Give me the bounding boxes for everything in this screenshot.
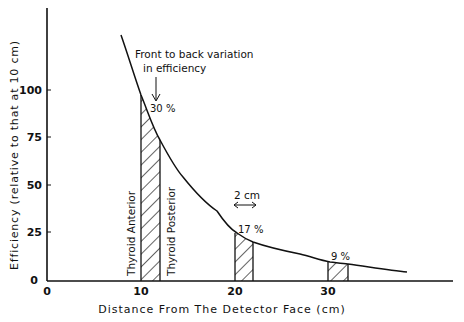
y-axis-title: Efficiency (relative to that at 10 cm) bbox=[8, 40, 21, 270]
y-tick-25: 25 bbox=[27, 226, 42, 239]
x-tick-20: 20 bbox=[227, 285, 243, 298]
double-arrow-icon bbox=[234, 202, 256, 208]
down-arrow-icon bbox=[152, 77, 160, 101]
pct-label-30cm: 9 % bbox=[331, 251, 350, 262]
y-tick-100: 100 bbox=[19, 84, 42, 97]
pct-label-10cm: 30 % bbox=[150, 103, 175, 114]
x-tick-0: 0 bbox=[43, 285, 51, 298]
scale-bar-label: 2 cm bbox=[234, 189, 260, 201]
y-tick-75: 75 bbox=[27, 131, 42, 144]
efficiency-chart: 100 75 50 25 0 0 10 20 30 Front to back … bbox=[0, 0, 464, 322]
pct-label-20cm: 17 % bbox=[238, 224, 263, 235]
y-tick-0: 0 bbox=[30, 274, 38, 287]
thyroid-posterior-label: Thyroid Posterior bbox=[165, 186, 177, 277]
x-ticks: 0 10 20 30 bbox=[43, 285, 336, 298]
y-tick-50: 50 bbox=[27, 179, 43, 192]
thyroid-anterior-label: Thyroid Anterior bbox=[125, 190, 137, 277]
annotation-line2: in efficiency bbox=[143, 62, 206, 74]
x-axis-title: Distance From The Detector Face (cm) bbox=[98, 303, 345, 316]
x-tick-10: 10 bbox=[133, 285, 149, 298]
annotation-line1: Front to back variation bbox=[135, 48, 254, 60]
x-tick-30: 30 bbox=[320, 285, 336, 298]
